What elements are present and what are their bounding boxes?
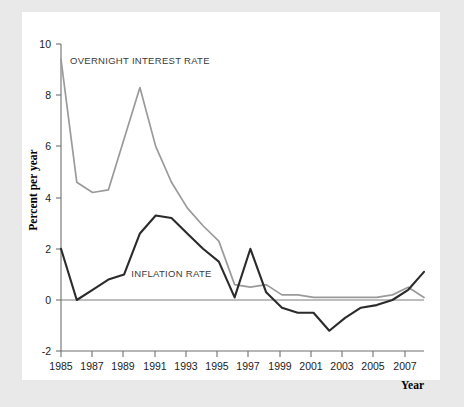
y-tick-marks xyxy=(56,44,61,351)
y-tick-label-10: 10 xyxy=(39,38,51,50)
x-tick-label-1995: 1995 xyxy=(205,360,229,372)
x-tick-label-1989: 1989 xyxy=(111,360,135,372)
x-tick-marks xyxy=(61,351,405,357)
y-tick-label-4: 4 xyxy=(45,192,51,204)
y-tick-label-2: 2 xyxy=(45,243,51,255)
y-tick-label-0: 0 xyxy=(45,294,51,306)
x-tick-label-2005: 2005 xyxy=(361,360,385,372)
x-tick-label-1993: 1993 xyxy=(174,360,198,372)
x-axis-title: Year xyxy=(401,379,424,391)
x-tick-label-2001: 2001 xyxy=(299,360,323,372)
chart-plot-area: 10 8 6 4 2 0 -2 1985 1987 1989 1991 199 xyxy=(0,0,464,407)
x-tick-label-2003: 2003 xyxy=(330,360,354,372)
y-tick-label-6: 6 xyxy=(45,140,51,152)
chart-figure: 10 8 6 4 2 0 -2 1985 1987 1989 1991 199 xyxy=(0,0,464,407)
x-tick-label-1985: 1985 xyxy=(49,360,73,372)
x-tick-label-1999: 1999 xyxy=(268,360,292,372)
x-tick-label-1997: 1997 xyxy=(236,360,260,372)
series-line-overnight-interest-rate xyxy=(61,59,424,297)
y-tick-label-minus2: -2 xyxy=(42,345,51,357)
annotation-overnight-interest-rate: OVERNIGHT INTEREST RATE xyxy=(70,55,210,66)
y-axis-title: Percent per year xyxy=(27,149,40,230)
annotation-inflation-rate: INFLATION RATE xyxy=(131,268,211,279)
series-line-inflation-rate xyxy=(61,216,424,331)
x-tick-label-1987: 1987 xyxy=(80,360,104,372)
x-tick-label-2007: 2007 xyxy=(393,360,417,372)
y-tick-label-8: 8 xyxy=(45,89,51,101)
x-tick-label-1991: 1991 xyxy=(143,360,167,372)
